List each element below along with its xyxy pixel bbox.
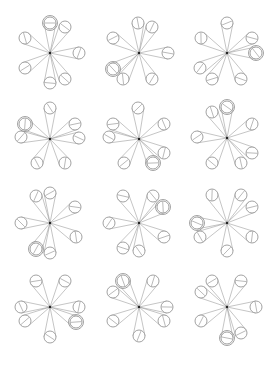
spoke-line — [118, 223, 139, 245]
radial-figure — [103, 102, 170, 171]
spoke-line — [22, 43, 50, 53]
center-dot — [49, 138, 51, 140]
spoke-line — [227, 202, 249, 223]
spoke-line — [217, 138, 227, 166]
spoke-line — [227, 223, 255, 232]
radial-figure — [194, 17, 264, 85]
spoke-line — [227, 53, 236, 82]
radial-figure — [106, 17, 175, 85]
center-dot — [49, 306, 51, 308]
spoke-line — [139, 119, 161, 139]
radial-figure — [15, 275, 85, 343]
spoke-line — [50, 212, 78, 223]
spoke-line — [50, 202, 72, 223]
spoke-line — [198, 43, 227, 53]
spoke-line — [217, 192, 227, 223]
spoke-line — [32, 139, 50, 160]
spoke-line — [129, 139, 139, 166]
spoke-line — [22, 53, 50, 63]
spoke-line — [42, 139, 50, 166]
spoke-line — [110, 43, 139, 53]
center-dot — [226, 137, 228, 139]
spoke-line — [139, 53, 147, 82]
radial-figure — [19, 16, 85, 90]
spoke-line — [128, 278, 139, 307]
spoke-line — [110, 307, 139, 316]
center-dot — [138, 138, 140, 140]
spoke-line — [227, 129, 255, 138]
spoke-line — [207, 115, 227, 138]
center-dot — [49, 52, 51, 54]
center-dot — [226, 306, 228, 308]
spoke-line — [50, 223, 79, 232]
radial-figure — [15, 102, 85, 169]
center-dot — [226, 222, 228, 224]
spoke-line — [50, 139, 60, 166]
spoke-line — [128, 53, 139, 82]
spoke-line — [207, 198, 227, 223]
spoke-line — [116, 53, 139, 74]
spoke-line — [128, 193, 139, 223]
spoke-line — [41, 278, 50, 307]
spoke-line — [139, 30, 157, 53]
center-dot — [138, 52, 140, 54]
center-dot — [49, 222, 51, 224]
spoke-line — [118, 53, 139, 76]
center-dot — [138, 222, 140, 224]
spoke-line — [139, 53, 157, 76]
radial-figure — [103, 190, 171, 257]
radial-figure — [190, 189, 259, 257]
spoke-line — [110, 53, 139, 64]
spoke-line — [139, 278, 148, 307]
spoke-line — [198, 307, 227, 316]
spoke-line — [116, 287, 139, 307]
spoke-line — [207, 138, 227, 160]
radial-figures-svg — [0, 0, 274, 366]
center-dot — [226, 52, 228, 54]
spoke-line — [227, 278, 236, 307]
radial-figure — [107, 274, 173, 343]
radial-figure — [191, 100, 258, 170]
spoke-line — [139, 223, 167, 232]
spoke-line — [116, 33, 139, 53]
radial-figure — [15, 187, 82, 259]
radial-figure — [195, 275, 262, 346]
center-dot — [138, 306, 140, 308]
spoke-line — [227, 192, 236, 223]
spoke-line — [204, 307, 227, 326]
diagram-canvas — [0, 0, 274, 366]
spoke-line — [139, 129, 167, 139]
spoke-line — [50, 278, 60, 307]
spoke-line — [119, 139, 139, 160]
